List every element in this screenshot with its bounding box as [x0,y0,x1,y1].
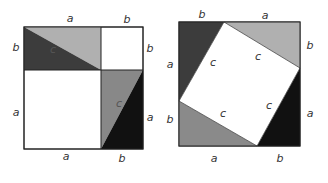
left-left-a-label: a [13,106,20,119]
left-hyp1-label: c [50,43,56,56]
left-bottom-a-label: a [63,150,70,163]
right-square: b a a b b a a b c c c c [167,8,314,165]
left-right-a-label: a [147,111,154,124]
right-left-b-label: b [167,113,174,126]
right-c2-label: c [255,50,261,63]
pythagorean-proof-figure: a b b a b a a b c c b a a b b a a b c c … [0,0,328,183]
right-top-a-label: a [262,9,269,22]
left-top-a-label: a [67,12,74,25]
left-right-b-label: b [147,42,154,55]
right-top-b-label: b [199,8,206,21]
left-square: a b b a b a a b c c [13,12,154,165]
right-bottom-b-label: b [277,152,284,165]
left-hyp2-label: c [116,97,122,110]
left-left-b-label: b [13,41,20,54]
left-top-b-label: b [124,13,131,26]
right-c1-label: c [210,56,216,69]
right-left-a-label: a [167,58,174,71]
right-right-b-label: b [307,39,314,52]
right-right-a-label: a [307,107,314,120]
left-bottom-b-label: b [119,152,126,165]
right-bottom-a-label: a [211,152,218,165]
right-c3-label: c [220,107,226,120]
right-c4-label: c [266,99,272,112]
